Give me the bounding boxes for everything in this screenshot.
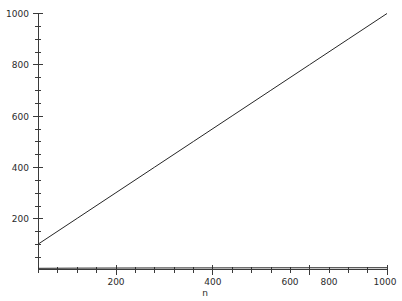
x-tick-label-1000: 1000: [374, 277, 397, 287]
series-line-logn: [39, 268, 388, 269]
chart-container: 1000 800 600 400 200: [0, 0, 402, 301]
series-group: [39, 14, 388, 269]
x-tick-label-400: 400: [204, 277, 221, 287]
y-tick-label-200: 200: [12, 214, 29, 224]
x-axis-title: n: [202, 288, 208, 298]
y-tick-label-400: 400: [12, 163, 29, 173]
x-axis-tick-labels: 200 400 600 800 1000: [107, 277, 396, 287]
x-tick-label-600: 600: [281, 277, 298, 287]
series-line-n: [39, 14, 388, 244]
plot-canvas: 1000 800 600 400 200: [0, 0, 402, 301]
x-tick-label-800: 800: [320, 277, 337, 287]
y-axis-tick-labels: 1000 800 600 400 200: [6, 9, 29, 224]
x-tick-label-200: 200: [107, 277, 124, 287]
y-tick-label-1000: 1000: [6, 9, 29, 19]
y-tick-label-800: 800: [12, 60, 29, 70]
y-tick-label-600: 600: [12, 112, 29, 122]
